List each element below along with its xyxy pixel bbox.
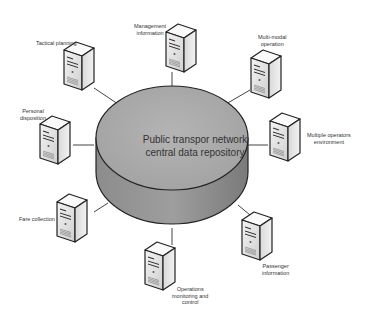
label-line: Operations <box>172 286 208 293</box>
label-line: monitoring and <box>172 293 208 300</box>
label-operations-monitoring-and-control: Operations monitoring and control <box>172 286 208 306</box>
label-line: Management <box>134 23 166 30</box>
label-multiple-operators-environment: Multiple operators environment <box>307 132 351 145</box>
label-line: Multi-modal <box>258 34 286 41</box>
label-line: operation <box>258 41 286 48</box>
connector-passenger-information <box>238 205 250 215</box>
server-icon-passenger-information <box>242 212 272 260</box>
label-line: information <box>262 270 289 277</box>
central-label-line-2: central data repository <box>120 147 270 160</box>
server-icon-management-information <box>166 24 196 72</box>
label-management-information: Management information <box>134 23 166 36</box>
label-multi-modal-operation: Multi-modal operation <box>258 34 286 47</box>
label-line: Tactical planning <box>36 40 77 47</box>
server-icon-fare-collection <box>57 194 87 242</box>
label-personal-disposition: Personal disposition <box>20 108 46 121</box>
label-passenger-information: Passenger information <box>262 263 289 276</box>
server-icon-operations-monitoring <box>145 242 175 290</box>
server-icon-multi-modal-operation <box>251 50 281 98</box>
label-line: disposition <box>20 115 46 122</box>
label-line: information <box>134 30 166 37</box>
connector-fare-collection <box>94 203 108 212</box>
central-label-line-1: Public transpor network <box>120 134 270 147</box>
label-line: Multiple operators <box>307 132 351 139</box>
label-line: control <box>172 299 208 306</box>
server-icon-tactical-planning <box>64 42 94 90</box>
label-line: Personal <box>20 108 46 115</box>
label-line: Fare collection <box>19 216 55 223</box>
connector-multi-modal-operation <box>226 90 250 104</box>
label-fare-collection: Fare collection <box>19 216 55 223</box>
label-tactical-planning: Tactical planning <box>36 40 77 47</box>
server-icon-personal-disposition <box>40 116 70 164</box>
label-line: Passenger <box>262 263 289 270</box>
central-repository-label: Public transpor network central data rep… <box>120 134 270 159</box>
label-line: environment <box>307 139 351 146</box>
network-diagram <box>0 0 368 321</box>
connector-tactical-planning <box>94 88 118 104</box>
server-icon-multiple-operators-environment <box>270 113 300 161</box>
